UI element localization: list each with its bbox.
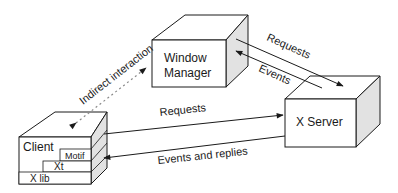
x-server-label: X Server bbox=[296, 115, 343, 129]
x-server-node: X Server bbox=[285, 76, 380, 147]
window-manager-label-line2: Manager bbox=[164, 66, 211, 80]
xt-label: Xt bbox=[54, 161, 64, 172]
client-events-label: Events and replies bbox=[157, 145, 249, 166]
indirect-interaction-edge: Indirect interaction bbox=[76, 42, 155, 123]
client-requests-edge: Requests bbox=[104, 101, 283, 134]
indirect-interaction-label: Indirect interaction bbox=[77, 42, 155, 107]
wm-requests-label: Requests bbox=[265, 31, 313, 61]
client-label: Client bbox=[23, 140, 54, 154]
client-events-edge: Events and replies bbox=[104, 136, 285, 166]
window-manager-label-line1: Window bbox=[164, 51, 207, 65]
motif-label: Motif bbox=[65, 151, 85, 161]
wm-events-label: Events bbox=[257, 62, 293, 87]
window-manager-node: Window Manager bbox=[152, 15, 248, 87]
xlib-label: X lib bbox=[30, 173, 50, 184]
xt-layer bbox=[43, 161, 91, 172]
client-node: Client Motif Xt X lib bbox=[19, 112, 107, 184]
x-architecture-diagram: Window Manager X Server Client Motif Xt … bbox=[0, 0, 398, 193]
client-requests-label: Requests bbox=[159, 101, 207, 118]
